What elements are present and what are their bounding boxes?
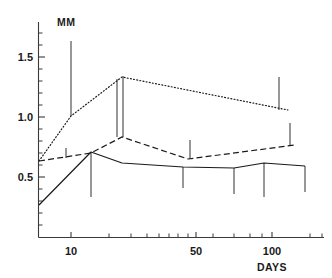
x-axis-title: DAYS: [257, 261, 287, 273]
line-chart-svg: 1.5 1.0 0.5 10 50 100 MM DAYS: [0, 0, 332, 278]
y-tick-label-0-5: 0.5: [18, 171, 33, 183]
x-tick-label-50: 50: [190, 245, 202, 257]
y-tick-label-1-5: 1.5: [18, 51, 33, 63]
x-tick-label-100: 100: [263, 245, 281, 257]
y-tick-label-1-0: 1.0: [18, 111, 33, 123]
x-tick-label-10: 10: [65, 245, 77, 257]
y-axis-title: MM: [57, 16, 75, 28]
chart-background: [0, 0, 332, 278]
chart-container: 1.5 1.0 0.5 10 50 100 MM DAYS: [0, 0, 332, 278]
